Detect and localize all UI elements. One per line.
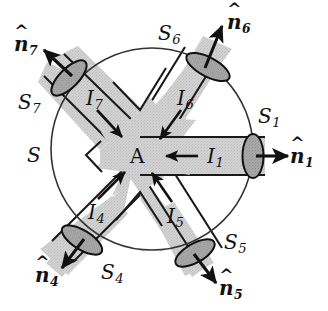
label-current-i7: I7: [86, 88, 103, 111]
label-normal-n4: ^n4: [35, 265, 59, 288]
label-surface-s1: S1: [258, 106, 281, 129]
label-current-i5: I5: [167, 206, 184, 229]
label-surface-s7: S7: [18, 92, 41, 115]
label-current-i1: I1: [207, 146, 224, 169]
figure-canvas: S A S1 I1 ^n1 S4 I4 ^n4 S5 I5 ^n5 S6 I6 …: [0, 0, 328, 311]
label-surface-s4: S4: [101, 262, 124, 285]
label-normal-n5: ^n5: [219, 278, 243, 301]
label-node-A: A: [130, 146, 144, 166]
label-normal-n7: ^n7: [14, 34, 38, 57]
label-surface-s6: S6: [158, 23, 181, 46]
label-normal-n1: ^n1: [290, 146, 314, 169]
label-normal-n6: ^n6: [227, 12, 251, 35]
label-current-i6: I6: [177, 88, 194, 111]
label-surface-S: S: [27, 145, 41, 165]
label-surface-s5: S5: [224, 232, 247, 255]
label-current-i4: I4: [88, 202, 105, 225]
